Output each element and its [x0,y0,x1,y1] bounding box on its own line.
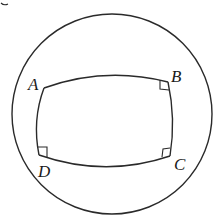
right-angle-marker-c [162,148,170,157]
vertex-label-c: C [174,155,186,174]
vertex-label-d: D [37,162,51,181]
side-bc [168,82,173,156]
quadrilateral-in-circle-diagram: A B C D [0,0,215,219]
vertex-label-b: B [171,67,182,86]
side-cd [39,155,170,167]
cropped-text-artifact [1,3,8,5]
vertex-label-a: A [27,75,39,94]
outer-circle [12,14,212,214]
side-ab [44,75,168,88]
side-da [36,88,44,155]
